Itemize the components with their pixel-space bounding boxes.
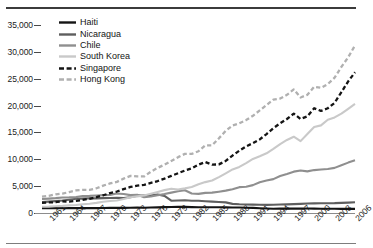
bottom-divider: [6, 243, 356, 244]
y-axis-tick-mark: [34, 106, 41, 107]
legend-label: Haiti: [80, 17, 98, 28]
legend-label: Hong Kong: [80, 74, 125, 85]
y-axis-tick-label: 20,000: [8, 101, 33, 111]
legend-swatch-icon: [59, 17, 76, 28]
y-axis-tick-mark: [34, 186, 41, 187]
top-divider: [6, 7, 356, 9]
x-axis-tick-label: 2006: [353, 203, 373, 223]
series-line-south-korea: [42, 104, 355, 207]
legend-label: Nicaragua: [80, 29, 121, 40]
y-axis-labels: 05,00010,00015,00020,00025,00030,00035,0…: [0, 0, 33, 248]
y-axis-tick-label: 5,000: [12, 181, 33, 191]
legend-item-nicaragua[interactable]: Nicaragua: [59, 28, 130, 39]
legend-swatch-icon: [59, 40, 76, 51]
legend-item-south-korea[interactable]: South Korea: [59, 51, 130, 62]
y-axis-tick-label: 25,000: [8, 74, 33, 84]
legend-item-hong-kong[interactable]: Hong Kong: [59, 74, 130, 85]
legend-item-haiti[interactable]: Haiti: [59, 17, 130, 28]
legend-label: Singapore: [80, 63, 121, 74]
y-axis-tick-label: 35,000: [8, 20, 33, 30]
legend-swatch-icon: [59, 51, 76, 62]
series-line-chile: [42, 160, 355, 199]
y-axis-tick-label: 10,000: [8, 154, 33, 164]
y-axis-tick-label: 15,000: [8, 127, 33, 137]
series-line-haiti: [42, 207, 355, 209]
series-line-singapore: [42, 72, 355, 203]
y-axis-tick-mark: [34, 159, 41, 160]
legend-item-singapore[interactable]: Singapore: [59, 63, 130, 74]
legend-swatch-icon: [59, 74, 76, 85]
legend-label: Chile: [80, 40, 101, 51]
legend-swatch-icon: [59, 29, 76, 40]
y-axis-tick-mark: [34, 52, 41, 53]
legend-label: South Korea: [80, 51, 130, 62]
legend-swatch-icon: [59, 63, 76, 74]
chart-legend: HaitiNicaraguaChileSouth KoreaSingaporeH…: [59, 17, 130, 85]
y-axis-tick-mark: [34, 132, 41, 133]
y-axis-tick-mark: [34, 25, 41, 26]
y-axis-tick-label: 30,000: [8, 47, 33, 57]
y-axis-tick-mark: [34, 79, 41, 80]
y-axis-tick-label: 0: [28, 208, 33, 218]
legend-item-chile[interactable]: Chile: [59, 40, 130, 51]
